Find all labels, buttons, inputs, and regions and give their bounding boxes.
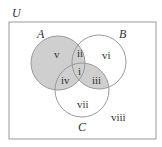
region-label-viii: viii [111,111,126,123]
universe-label: U [12,6,22,20]
region-label-iii: iii [92,74,101,86]
set-c-label: C [78,120,87,134]
set-b-label: B [119,27,127,41]
set-a-label: A [36,27,45,41]
venn-diagram: U A B C i ii iii iv v vi vii viii [0,0,162,147]
region-label-vii: vii [77,98,89,110]
region-label-v: v [54,48,60,60]
region-label-iv: iv [61,74,70,86]
region-label-vi: vi [102,49,111,61]
region-label-i: i [78,65,81,77]
region-label-ii: ii [77,47,83,59]
